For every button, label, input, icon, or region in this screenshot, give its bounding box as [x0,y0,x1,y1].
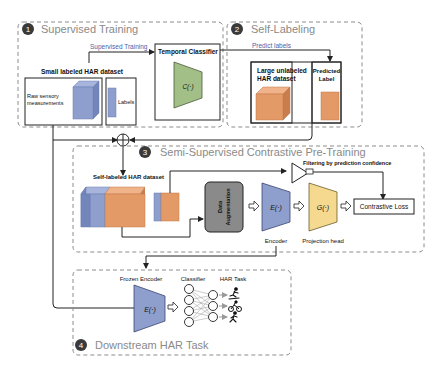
raw-data-cube [73,81,99,119]
frozen-encoder-function: E(·) [144,306,156,314]
unlabeled-data-cube [256,87,290,120]
frozen-encoder-label: Frozen Encoder [120,276,163,282]
stage-2-panel: 2 Self-Labeling Predict labels Large unl… [227,22,362,127]
labels-text: Labels [118,99,134,105]
data-augmentation-box[interactable] [205,182,243,232]
projection-function: G(·) [317,204,329,212]
self-labeled-data-cube [81,187,145,227]
input-node [185,296,194,305]
encoder-function: E(·) [270,204,282,212]
stage-4-panel: 4 Downstream HAR Task Frozen Encoder Cla… [73,270,291,355]
predict-labels-label: Predict labels [252,42,292,49]
temporal-classifier-title: Temporal Classifier [158,48,218,56]
projection-head-label: Projection head [302,238,344,244]
predicted-label-line2: Label [319,76,335,82]
augment-to-encoder-arrow [249,201,259,211]
predicted-label-bar [321,92,339,120]
input-node [185,285,194,294]
predict-labels-arrow [220,50,330,61]
stage-1-panel: 1 Supervised Training Supervised Trainin… [18,22,223,127]
augmentation-line2: Augmentation [225,188,231,226]
output-node [209,302,218,311]
stage-2-title: Self-Labeling [251,23,315,35]
encoder-to-classifier-arrow [168,302,178,312]
stage-3-number: 3 [143,148,148,157]
stage-1-title: Supervised Training [41,23,138,35]
filter-label: Filtering by prediction confidence [303,160,391,166]
input-node [185,307,194,316]
projection-to-loss-arrow [341,201,351,211]
unlabeled-dataset-line2: HAR dataset [257,75,296,82]
classifier-function: C(·) [182,83,193,91]
walking-icon [230,312,237,322]
supervised-training-arrow [89,52,154,63]
stage-1-number: 1 [26,25,31,34]
stage-4-title: Downstream HAR Task [95,339,209,351]
output-node [209,291,218,300]
self-labels-orange-bar [161,193,179,221]
self-labeled-dataset-title: Self-labeled HAR dataset [93,174,164,180]
output-node [209,313,218,322]
stage-3-panel: 3 Semi-Supervised Contrastive Pre-Traini… [73,146,424,252]
encoder-to-projection-arrow [294,201,304,211]
contrastive-loss-label: Contrastive Loss [360,203,409,210]
predicted-label-line1: Predicted [313,68,341,74]
self-labels-blue-bar [154,193,161,221]
stage-3-title: Semi-Supervised Contrastive Pre-Training [160,146,366,158]
stage-2-number: 2 [235,25,240,34]
input-node [185,318,194,327]
encoder-transfer-line [146,246,276,268]
supervised-training-label: Supervised Training [90,43,148,51]
cycling-icon [229,301,242,312]
raw-label-line1: Raw sensory [27,93,59,99]
encoder-label: Encoder [265,238,287,244]
augmentation-line1: Data [217,200,223,213]
small-dataset-title: Small labeled HAR dataset [41,68,124,75]
classifier-label: Classifier [181,276,206,282]
merge-plus-icon [117,134,129,146]
filter-gate-output [306,169,313,174]
skateboarding-icon [229,288,239,299]
raw-label-line2: measurements [27,100,64,106]
stage-4-number: 4 [79,341,84,350]
labels-bar [108,88,116,117]
har-task-label: HAR Task [220,276,248,282]
unlabeled-dataset-line1: Large unlabeled [257,67,307,75]
